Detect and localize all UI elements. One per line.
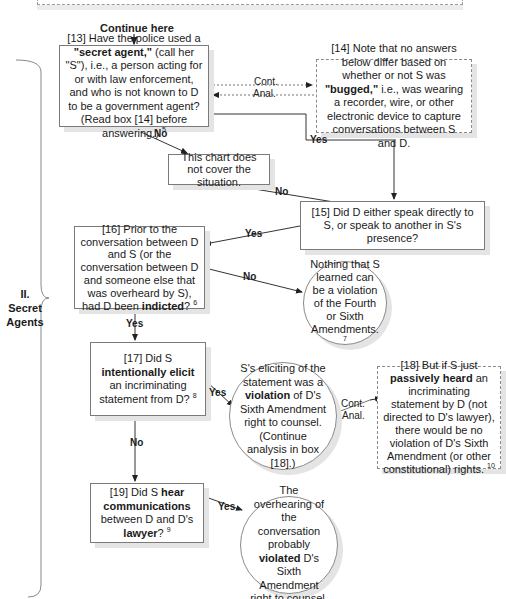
anal-label: Anal. bbox=[253, 88, 276, 99]
edge-label-yes-17: Yes bbox=[209, 387, 226, 398]
violated-term: violated bbox=[259, 552, 301, 564]
question-box-16: [16] Prior to the conversation between D… bbox=[74, 226, 205, 309]
question-box-13: [13] Have the police used a "secret agen… bbox=[59, 45, 209, 127]
question-box-15: [15] Did D either speak directly to S, o… bbox=[300, 201, 485, 250]
outcome-not-covered: This chart does not cover the situation. bbox=[168, 154, 270, 185]
outcome-no-violation: Nothing that S learned can be a violatio… bbox=[303, 261, 387, 345]
violation-term: violation bbox=[245, 389, 290, 401]
edge-label-yes-16: Yes bbox=[126, 318, 143, 329]
edge-label-no-15: No bbox=[275, 186, 288, 197]
footnote-ref: 8 bbox=[193, 392, 197, 399]
anal-label-18: Anal. bbox=[342, 410, 365, 421]
passively-heard-term: passively heard bbox=[390, 372, 473, 384]
bugged-term: "bugged," bbox=[325, 83, 378, 95]
footnote-ref: 10 bbox=[487, 462, 495, 469]
edge-label-yes-19: Yes bbox=[218, 501, 235, 512]
note-box-14: [14] Note that no answers below differ b… bbox=[316, 59, 472, 133]
footnote-ref: 9 bbox=[167, 526, 171, 533]
section-title-line1: Secret bbox=[5, 301, 45, 315]
section-numeral: II. bbox=[5, 287, 45, 301]
edge-label-no-16: No bbox=[243, 271, 256, 282]
cont-label: Cont. bbox=[254, 76, 278, 87]
edge-label-no-13: No bbox=[154, 128, 167, 139]
indicted-term: indicted bbox=[142, 300, 184, 312]
edge-label-no-17: No bbox=[130, 437, 143, 448]
cont-label-18: Cont. bbox=[341, 398, 365, 409]
secret-agent-term: "secret agent," bbox=[74, 46, 152, 58]
outcome-overhearing-violation: The overhearing of the conversation prob… bbox=[240, 496, 338, 594]
question-box-17: [17] Did S intentionally elicit an incri… bbox=[90, 342, 206, 416]
edge-label-yes-13: Yes bbox=[310, 134, 327, 145]
outcome-sixth-amendment-violation: S's eliciting of the statement was a vio… bbox=[229, 362, 337, 470]
edge-label-yes-15: Yes bbox=[245, 228, 262, 239]
note-box-18: [18] But if S just passively heard an in… bbox=[377, 366, 501, 469]
footnote-ref: 7 bbox=[343, 335, 347, 342]
question-box-19: [19] Did S hear communications between D… bbox=[90, 483, 204, 543]
lawyer-term: lawyer bbox=[123, 527, 157, 539]
section-title: II. Secret Agents bbox=[5, 287, 45, 329]
footnote-ref: 6 bbox=[193, 299, 197, 306]
section-title-line2: Agents bbox=[5, 315, 45, 329]
intentionally-elicit-term: intentionally elicit bbox=[102, 366, 195, 378]
